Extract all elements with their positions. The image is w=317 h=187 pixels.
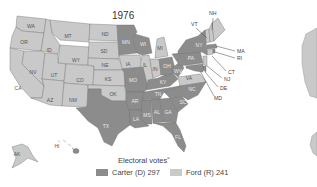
- svg-text:FL: FL: [175, 134, 181, 140]
- svg-text:OK: OK: [109, 91, 117, 97]
- svg-text:AK: AK: [14, 151, 21, 157]
- svg-text:AZ: AZ: [47, 97, 53, 103]
- svg-text:IL: IL: [143, 62, 147, 68]
- svg-text:AL: AL: [154, 109, 160, 115]
- svg-text:MA: MA: [237, 48, 245, 54]
- state-ri: [213, 49, 215, 53]
- svg-text:NM: NM: [69, 97, 77, 103]
- svg-text:CT: CT: [228, 69, 236, 75]
- svg-text:IN: IN: [153, 66, 158, 72]
- svg-text:RI: RI: [237, 55, 242, 61]
- svg-text:DE: DE: [220, 85, 228, 91]
- state-de: [203, 66, 206, 72]
- footnote-mark: a: [167, 155, 169, 160]
- svg-text:NV: NV: [30, 69, 38, 75]
- svg-text:TN: TN: [155, 91, 162, 97]
- carter-swatch: [96, 169, 108, 176]
- svg-text:VA: VA: [186, 75, 193, 81]
- svg-text:SC: SC: [180, 99, 187, 105]
- state-nm: [62, 83, 88, 107]
- state-fl: [153, 123, 186, 152]
- svg-text:CA: CA: [15, 85, 23, 91]
- legend-item-carter: Carter (D) 297: [96, 168, 160, 177]
- svg-text:SD: SD: [101, 48, 108, 54]
- legend-title: Electoral votesa: [118, 155, 169, 165]
- svg-text:NE: NE: [102, 62, 110, 68]
- svg-text:NC: NC: [188, 86, 196, 92]
- svg-text:PA: PA: [188, 55, 195, 61]
- state-md: [186, 64, 203, 72]
- svg-text:MO: MO: [129, 77, 137, 83]
- svg-text:UT: UT: [51, 72, 58, 78]
- svg-text:NJ: NJ: [224, 76, 231, 82]
- svg-text:MN: MN: [122, 39, 130, 45]
- svg-text:WV: WV: [174, 68, 183, 74]
- svg-text:MS: MS: [143, 112, 151, 118]
- svg-text:WY: WY: [72, 57, 81, 63]
- ford-label: Ford (R) 241: [186, 168, 229, 177]
- svg-text:TX: TX: [103, 123, 110, 129]
- svg-text:CO: CO: [76, 77, 84, 83]
- svg-text:OR: OR: [20, 39, 28, 45]
- svg-text:LA: LA: [133, 116, 140, 122]
- svg-text:IA: IA: [126, 61, 131, 67]
- state-nj: [203, 56, 207, 66]
- legend: Carter (D) 297 Ford (R) 241: [96, 168, 238, 177]
- svg-text:ND: ND: [101, 31, 109, 37]
- svg-text:AR: AR: [132, 98, 139, 104]
- adjacent-map-fragment: [302, 28, 317, 156]
- state-ia: [119, 55, 143, 69]
- ford-swatch: [170, 169, 182, 176]
- legend-title-text: Electoral votes: [118, 156, 167, 165]
- carter-label: Carter (D) 297: [112, 168, 160, 177]
- legend-item-ford: Ford (R) 241: [170, 168, 229, 177]
- svg-text:NH: NH: [209, 10, 217, 16]
- svg-text:VT: VT: [191, 21, 198, 27]
- svg-text:WA: WA: [27, 23, 36, 29]
- svg-text:ID: ID: [47, 47, 52, 53]
- svg-text:NY: NY: [196, 42, 204, 48]
- svg-text:MT: MT: [64, 33, 71, 39]
- svg-text:OH: OH: [163, 63, 171, 69]
- svg-text:KS: KS: [105, 76, 112, 82]
- state-ct: [207, 49, 213, 55]
- svg-text:GA: GA: [164, 109, 172, 115]
- svg-text:MI: MI: [157, 45, 163, 51]
- svg-text:KY: KY: [160, 79, 167, 85]
- state-me: [212, 18, 225, 41]
- svg-text:HI: HI: [55, 143, 60, 149]
- state-ma: [207, 44, 217, 49]
- svg-text:WI: WI: [140, 41, 146, 47]
- svg-text:MD: MD: [214, 95, 222, 101]
